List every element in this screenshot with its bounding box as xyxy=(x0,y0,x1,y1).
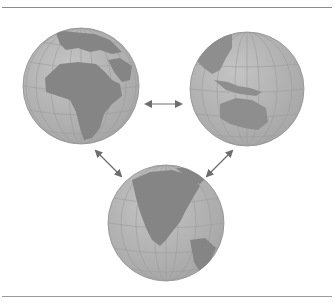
globe-europe-africa xyxy=(23,28,139,144)
double-arrow-left-bottom xyxy=(96,151,121,176)
globe-north-america xyxy=(108,165,224,281)
double-arrow-right-bottom xyxy=(207,151,232,176)
globe-asia-australia xyxy=(190,32,304,146)
globes-diagram xyxy=(0,0,335,304)
